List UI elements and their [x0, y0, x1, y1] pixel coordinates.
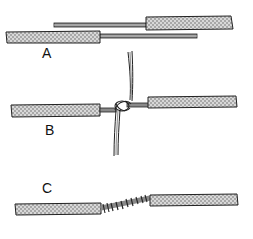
panel-a-lower-conductor — [100, 34, 197, 38]
panel-c-left-insulation — [15, 203, 101, 215]
panel-a-label: A — [42, 46, 51, 60]
panel-c-right-insulation — [150, 194, 238, 206]
panel-b-left-insulation — [11, 104, 100, 117]
panel-a-upper-conductor — [54, 23, 146, 27]
panel-b-left-conductor — [100, 108, 116, 112]
panel-c — [15, 194, 238, 215]
panel-b-lower-strand — [114, 110, 120, 156]
splice-diagram — [0, 0, 253, 239]
panel-b — [11, 51, 237, 156]
panel-c-twisted-splice — [101, 195, 150, 213]
panel-b-label: B — [45, 123, 54, 137]
panel-b-right-insulation — [148, 96, 237, 108]
panel-a-upper-insulation — [146, 16, 233, 30]
panel-c-label: C — [42, 181, 52, 195]
panel-a — [6, 16, 233, 43]
panel-b-upper-strand — [128, 51, 133, 101]
panel-a-lower-insulation — [6, 31, 100, 43]
panel-b-knot — [115, 101, 131, 111]
